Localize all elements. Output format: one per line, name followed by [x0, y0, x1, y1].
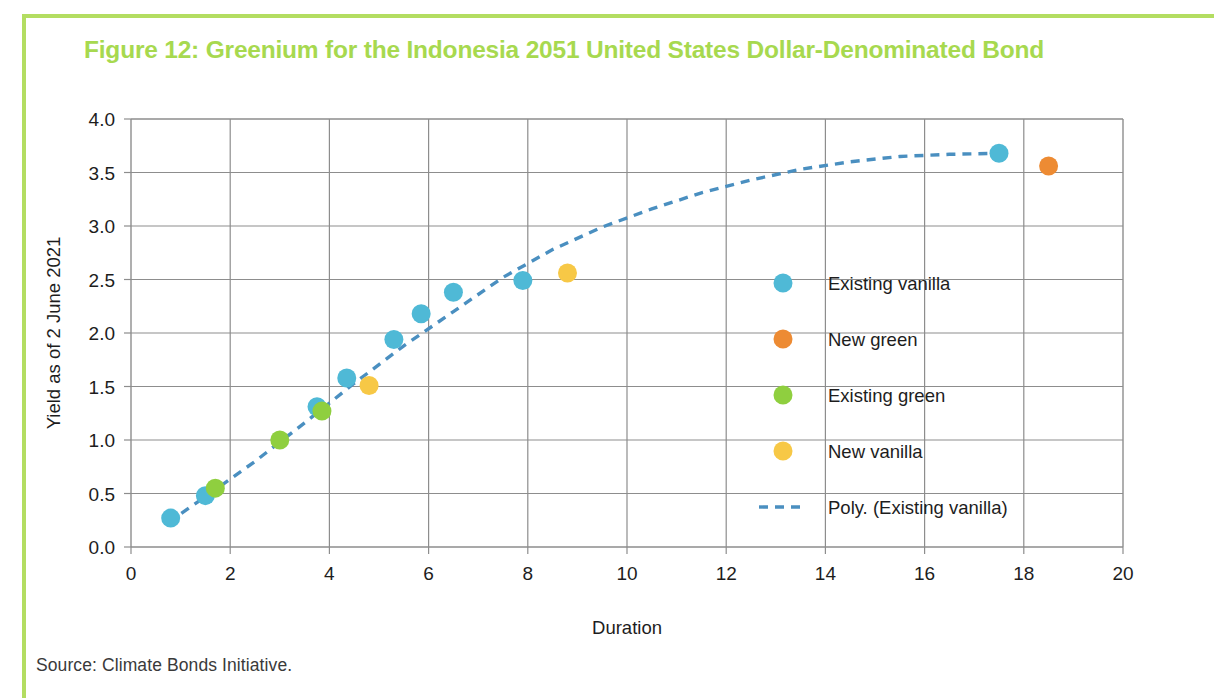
- data-point: [558, 264, 577, 283]
- x-axis-tick-label: 18: [1013, 563, 1034, 584]
- x-axis-tick-labels: 02468101214161820: [126, 563, 1134, 584]
- x-axis-tick-label: 4: [324, 563, 335, 584]
- legend-marker-circle: [774, 386, 793, 405]
- axis-tick-marks: [124, 119, 1123, 554]
- data-point: [412, 304, 431, 323]
- data-point: [444, 283, 463, 302]
- legend-label: New green: [828, 329, 917, 350]
- data-point: [990, 144, 1009, 163]
- y-axis-tick-label: 0.5: [89, 484, 115, 505]
- source-note: Source: Climate Bonds Initiative.: [36, 655, 292, 676]
- data-point: [270, 431, 289, 450]
- data-point: [1039, 157, 1058, 176]
- legend-label: Poly. (Existing vanilla): [828, 497, 1008, 518]
- x-axis-tick-label: 12: [716, 563, 737, 584]
- y-axis-tick-label: 1.0: [89, 430, 115, 451]
- data-point: [337, 368, 356, 387]
- grid-lines: [131, 119, 1123, 547]
- figure-page: Figure 12: Greenium for the Indonesia 20…: [0, 0, 1214, 698]
- data-point: [312, 402, 331, 421]
- x-axis-tick-label: 14: [815, 563, 837, 584]
- y-axis-tick-label: 0.0: [89, 537, 115, 558]
- y-axis-tick-label: 4.0: [89, 109, 115, 130]
- legend-label: New vanilla: [828, 441, 923, 462]
- y-axis-tick-labels: 0.00.51.01.52.02.53.03.54.0: [89, 109, 115, 558]
- chart-svg: 024681012141618200.00.51.01.52.02.53.03.…: [0, 0, 1214, 698]
- x-axis-tick-label: 20: [1112, 563, 1133, 584]
- x-axis-tick-label: 6: [423, 563, 434, 584]
- x-axis-tick-label: 16: [914, 563, 935, 584]
- legend-marker-circle: [774, 330, 793, 349]
- data-point: [513, 271, 532, 290]
- series-new-green: [1039, 157, 1058, 176]
- data-point: [161, 509, 180, 528]
- y-axis-tick-label: 1.5: [89, 377, 115, 398]
- series-new-vanilla: [360, 264, 577, 395]
- x-axis-tick-label: 0: [126, 563, 137, 584]
- legend-marker-circle: [774, 442, 793, 461]
- y-axis-tick-label: 3.0: [89, 216, 115, 237]
- y-axis-tick-label: 3.5: [89, 163, 115, 184]
- data-point: [360, 376, 379, 395]
- chart-legend: Existing vanillaNew greenExisting greenN…: [759, 273, 1008, 518]
- data-point: [206, 479, 225, 498]
- y-axis-tick-label: 2.0: [89, 323, 115, 344]
- scatter-chart: 024681012141618200.00.51.01.52.02.53.03.…: [0, 0, 1214, 698]
- legend-label: Existing vanilla: [828, 273, 951, 294]
- y-axis-tick-label: 2.5: [89, 270, 115, 291]
- x-axis-title: Duration: [592, 617, 662, 638]
- x-axis-tick-label: 2: [225, 563, 236, 584]
- x-axis-tick-label: 10: [616, 563, 637, 584]
- data-point: [384, 330, 403, 349]
- legend-marker-circle: [774, 274, 793, 293]
- x-axis-tick-label: 8: [523, 563, 534, 584]
- legend-label: Existing green: [828, 385, 945, 406]
- y-axis-title: Yield as of 2 June 2021: [43, 237, 64, 430]
